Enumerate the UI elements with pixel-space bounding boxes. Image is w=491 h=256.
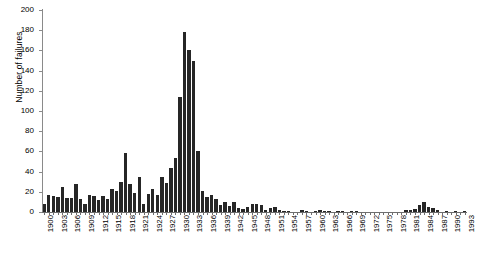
x-tick-mark [58, 212, 59, 215]
x-tick-mark [76, 212, 77, 215]
y-tick-label: 160 [4, 45, 34, 54]
x-tick-mark [135, 212, 136, 215]
x-tick-mark [117, 212, 118, 215]
x-tick-mark [329, 212, 330, 215]
x-tick-mark [243, 212, 244, 215]
x-tick-mark [361, 212, 362, 215]
x-tick-mark [406, 212, 407, 215]
x-tick-mark [234, 212, 235, 215]
bar-1912 [97, 200, 100, 212]
y-tick-label: 120 [4, 86, 34, 95]
x-tick-mark [62, 212, 63, 215]
y-tick-label: 140 [4, 66, 34, 75]
y-tick-label: 60 [4, 146, 34, 155]
x-tick-mark [180, 212, 181, 215]
x-tick-mark [144, 212, 145, 215]
bar-1906 [70, 198, 73, 212]
x-tick-mark [121, 212, 122, 215]
x-tick-mark [221, 212, 222, 215]
bar-1900 [43, 204, 46, 212]
bar-1933 [192, 61, 195, 213]
x-tick-mark [279, 212, 280, 215]
y-tick-label: 80 [4, 126, 34, 135]
x-tick-mark [352, 212, 353, 215]
x-tick-mark [162, 212, 163, 215]
bar-1924 [151, 189, 154, 212]
x-tick-mark [306, 212, 307, 215]
x-tick-mark [239, 212, 240, 215]
x-tick-mark [370, 212, 371, 215]
bars-group [42, 10, 467, 212]
x-tick-label: 1993 [468, 187, 477, 217]
x-tick-mark [284, 212, 285, 215]
x-tick-mark [53, 212, 54, 215]
y-tick-label: 200 [4, 5, 34, 14]
bar-1921 [138, 177, 141, 212]
x-tick-mark [157, 212, 158, 215]
x-tick-mark [316, 212, 317, 215]
x-tick-mark [415, 212, 416, 215]
x-tick-mark [189, 212, 190, 215]
x-tick-mark [297, 212, 298, 215]
x-tick-mark [433, 212, 434, 215]
bar-1903 [56, 197, 59, 212]
x-tick-mark [171, 212, 172, 215]
x-tick-mark [257, 212, 258, 215]
bar-1939 [219, 205, 222, 212]
x-tick-mark [460, 212, 461, 215]
y-tick-label: 100 [4, 106, 34, 115]
x-tick-mark [198, 212, 199, 215]
x-axis-ticks: 1900190319061909191219151918192119241927… [42, 212, 467, 256]
x-tick-mark [67, 212, 68, 215]
x-tick-mark [89, 212, 90, 215]
bar-1909 [83, 204, 86, 212]
x-tick-mark [80, 212, 81, 215]
x-tick-mark [338, 212, 339, 215]
y-tick-label: 40 [4, 167, 34, 176]
x-tick-mark [397, 212, 398, 215]
x-tick-mark [153, 212, 154, 215]
x-tick-mark [438, 212, 439, 215]
x-tick-mark [442, 212, 443, 215]
bar-1984 [422, 202, 425, 212]
x-tick-mark [325, 212, 326, 215]
x-tick-mark [207, 212, 208, 215]
y-tick-label: 180 [4, 25, 34, 34]
x-tick-mark [392, 212, 393, 215]
x-tick-mark [216, 212, 217, 215]
x-tick-mark [343, 212, 344, 215]
bar-1930 [178, 97, 181, 212]
bar-1936 [205, 197, 208, 212]
x-tick-mark [248, 212, 249, 215]
x-tick-mark [126, 212, 127, 215]
x-tick-mark [447, 212, 448, 215]
x-tick-mark [212, 212, 213, 215]
y-tick-label: 20 [4, 187, 34, 196]
x-tick-mark [270, 212, 271, 215]
bar-1918 [124, 153, 127, 212]
bar-1948 [260, 205, 263, 212]
x-tick-mark [130, 212, 131, 215]
x-tick-mark [302, 212, 303, 215]
x-tick-mark [456, 212, 457, 215]
x-tick-mark [99, 212, 100, 215]
x-tick-mark [429, 212, 430, 215]
y-tick-label: 0 [4, 207, 34, 216]
bar-1931 [183, 32, 186, 212]
x-tick-mark [379, 212, 380, 215]
x-tick-mark [230, 212, 231, 215]
x-tick-mark [347, 212, 348, 215]
x-tick-mark [320, 212, 321, 215]
x-tick-mark [184, 212, 185, 215]
x-tick-mark [374, 212, 375, 215]
x-tick-mark [112, 212, 113, 215]
x-tick-mark [465, 212, 466, 215]
x-tick-mark [203, 212, 204, 215]
x-tick-mark [275, 212, 276, 215]
x-tick-mark [225, 212, 226, 215]
x-tick-mark [334, 212, 335, 215]
x-tick-mark [401, 212, 402, 215]
x-tick-mark [420, 212, 421, 215]
x-tick-mark [175, 212, 176, 215]
x-tick-mark [424, 212, 425, 215]
